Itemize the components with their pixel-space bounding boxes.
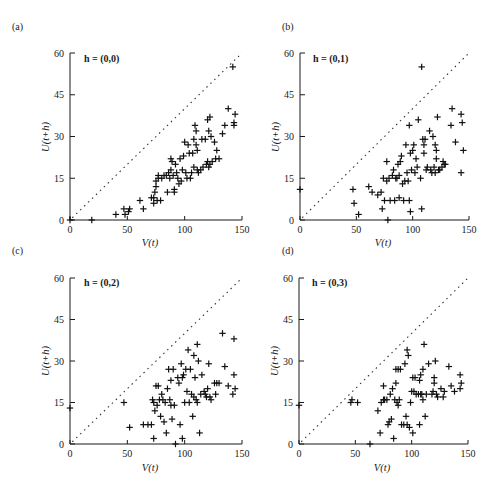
plus-marker [402,361,408,367]
axes-c: 050100150015304560 [54,273,250,460]
plus-marker [421,150,427,156]
plus-marker [193,128,199,134]
plus-marker [405,352,411,358]
plus-marker [350,186,356,192]
panel-title-a: h = (0,0) [84,53,119,65]
x-tick-label: 0 [68,224,73,235]
plus-marker [140,206,146,212]
plus-marker [433,147,439,153]
x-tick-label: 0 [68,448,73,459]
plus-marker [189,413,195,419]
plus-marker [416,421,422,427]
plus-marker [417,175,423,181]
panel-a: (a) h = (0,0) 050100150015304560 V(t) U(… [12,21,250,249]
plus-marker [458,380,464,386]
plus-marker [431,374,437,380]
plus-marker [168,377,174,383]
plus-marker [458,111,464,117]
axes-a: 050100150015304560 [54,48,250,236]
y-tick-label: 0 [59,215,64,226]
plus-marker [385,217,391,223]
reference-diagonal [72,53,242,218]
plus-marker [208,133,214,139]
y-tick-label: 45 [283,314,293,325]
plus-marker [422,413,428,419]
plus-marker [434,114,440,120]
x-tick-label: 50 [351,224,361,235]
plus-marker [89,217,95,223]
plus-marker [432,142,438,148]
plus-marker [177,421,183,427]
plus-marker [418,64,424,70]
plus-marker [121,399,127,405]
x-axis-label-a: V(t) [142,237,159,249]
plus-marker [405,178,411,184]
points-c [67,330,239,447]
plus-marker [457,385,463,391]
plus-marker [421,142,427,148]
plus-marker [225,383,231,389]
plus-marker [421,341,427,347]
y-tick-label: 15 [54,173,64,184]
plus-marker [211,139,217,145]
plus-marker [398,153,404,159]
panel-label-a: (a) [12,21,23,33]
panel-d: (d) h = (0,3) 050100150015304560 V(t) U(… [269,245,476,474]
plus-marker [212,391,218,397]
y-tick-label: 0 [289,215,294,226]
plus-marker [206,128,212,134]
plus-marker [413,156,419,162]
plus-marker [230,391,236,397]
plus-marker [393,380,399,386]
plus-marker [193,142,199,148]
x-tick-label: 50 [122,448,132,459]
plus-marker [148,421,154,427]
plus-marker [222,363,228,369]
plus-marker [431,380,437,386]
y-axis-label-a: U(t+h) [40,122,52,152]
y-axis-label-d: U(t+h) [269,346,281,376]
panel-label-b: (b) [282,21,294,33]
plus-marker [151,435,157,441]
reference-diagonal [72,278,242,442]
plus-marker [191,136,197,142]
y-tick-label: 45 [54,89,64,100]
x-tick-label: 150 [461,448,476,459]
plus-marker [176,380,182,386]
plus-marker [366,183,372,189]
plus-marker [367,441,373,447]
plus-marker [202,136,208,142]
plus-marker [418,206,424,212]
plus-marker [187,366,193,372]
plus-marker [387,391,393,397]
plus-marker [375,408,381,414]
x-axis-label-c: V(t) [142,462,159,474]
y-tick-label: 30 [283,356,293,367]
plus-marker [377,430,383,436]
plus-marker [157,413,163,419]
x-tick-label: 100 [404,448,419,459]
x-tick-label: 0 [297,448,302,459]
plus-marker [414,164,420,170]
plus-marker [164,189,170,195]
plus-marker [195,358,201,364]
plus-marker [420,366,426,372]
plus-marker [407,399,413,405]
y-tick-label: 30 [54,131,64,142]
panel-c: (c) h = (0,2) 050100150015304560 V(t) U(… [12,245,250,474]
x-axis-label-b: V(t) [375,237,392,249]
plus-marker [433,156,439,162]
x-tick-label: 150 [462,224,477,235]
plus-marker [206,361,212,367]
plus-marker [457,372,463,378]
y-tick-label: 0 [59,439,64,450]
plus-marker [232,385,238,391]
plus-marker [407,208,413,214]
panel-label-c: (c) [12,245,23,257]
plus-marker [381,197,387,203]
x-axis-label-d: V(t) [374,462,391,474]
plus-marker [67,405,73,411]
plus-marker [153,183,159,189]
plus-marker [219,131,225,137]
plus-marker [426,128,432,134]
